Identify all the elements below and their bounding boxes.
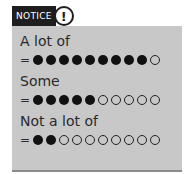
dot-scale: = (20, 130, 174, 150)
filled-dot-icon (137, 55, 147, 65)
row-not-a-lot-of: Not a lot of = (20, 112, 174, 150)
empty-dot-icon (111, 135, 121, 145)
equals-sign: = (20, 53, 30, 67)
row-some: Some = (20, 72, 174, 110)
empty-dot-icon (98, 95, 108, 105)
filled-dot-icon (72, 55, 82, 65)
empty-dot-icon (137, 135, 147, 145)
empty-dot-icon (111, 95, 121, 105)
filled-dot-icon (33, 55, 43, 65)
empty-dot-icon (150, 135, 160, 145)
equals-sign: = (20, 133, 30, 147)
empty-dot-icon (98, 135, 108, 145)
notice-panel: A lot of = Some = Not a lot of = (12, 26, 182, 172)
empty-dot-icon (137, 95, 147, 105)
filled-dot-icon (124, 55, 134, 65)
row-label: Not a lot of (20, 112, 174, 130)
filled-dot-icon (46, 135, 56, 145)
filled-dot-icon (46, 95, 56, 105)
empty-dot-icon (150, 95, 160, 105)
notice-label: NOTICE (12, 6, 56, 26)
filled-dot-icon (111, 55, 121, 65)
filled-dot-icon (33, 135, 43, 145)
dot-scale: = (20, 50, 174, 70)
empty-dot-icon (150, 55, 160, 65)
dot-scale: = (20, 90, 174, 110)
exclamation-circle-icon: ! (54, 6, 74, 26)
filled-dot-icon (46, 55, 56, 65)
notice-header: NOTICE ! (12, 6, 74, 26)
filled-dot-icon (85, 95, 95, 105)
row-label: Some (20, 72, 174, 90)
filled-dot-icon (72, 95, 82, 105)
row-a-lot-of: A lot of = (20, 32, 174, 70)
empty-dot-icon (72, 135, 82, 145)
empty-dot-icon (124, 135, 134, 145)
filled-dot-icon (98, 55, 108, 65)
empty-dot-icon (85, 135, 95, 145)
filled-dot-icon (59, 95, 69, 105)
empty-dot-icon (59, 135, 69, 145)
equals-sign: = (20, 93, 30, 107)
row-label: A lot of (20, 32, 174, 50)
filled-dot-icon (85, 55, 95, 65)
filled-dot-icon (59, 55, 69, 65)
empty-dot-icon (124, 95, 134, 105)
filled-dot-icon (33, 95, 43, 105)
